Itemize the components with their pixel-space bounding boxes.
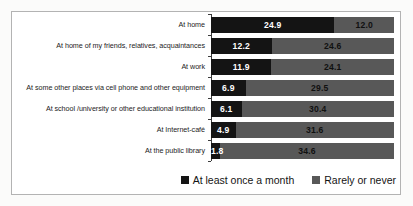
axis-tick [208, 56, 211, 57]
bar: 11.924.1 [211, 59, 394, 75]
segment-at-least-once-a-month: 6.1 [211, 101, 242, 117]
segment-rarely-or-never: 30.4 [242, 101, 394, 117]
axis-tick [208, 14, 211, 15]
value-label: 11.9 [233, 62, 250, 72]
value-label: 6.9 [222, 83, 235, 93]
segment-rarely-or-never: 31.6 [236, 122, 394, 138]
value-label: 1.8 [211, 146, 224, 156]
segment-at-least-once-a-month: 4.9 [211, 122, 236, 138]
value-label: 31.6 [306, 125, 324, 135]
value-label: 30.4 [309, 104, 327, 114]
category-label: At work [12, 62, 211, 71]
chart-row: At school /university or other education… [12, 98, 400, 119]
value-label: 24.9 [264, 20, 282, 30]
legend: At least once a monthRarely or never [12, 174, 400, 186]
category-label: At the public library [12, 146, 211, 155]
value-label: 34.6 [298, 146, 316, 156]
value-label: 29.5 [311, 83, 329, 93]
segment-at-least-once-a-month: 6.9 [211, 80, 246, 96]
bar: 4.931.6 [211, 122, 394, 138]
value-label: 24.1 [324, 62, 342, 72]
legend-item: At least once a month [181, 174, 295, 186]
chart-row: At work11.924.1 [12, 56, 400, 77]
segment-rarely-or-never: 12.0 [334, 17, 394, 33]
chart-row: At Internet-café4.931.6 [12, 119, 400, 140]
chart-row: At home24.912.0 [12, 14, 400, 35]
category-label: At home of my friends, relatives, acquai… [12, 41, 211, 50]
segment-rarely-or-never: 24.6 [272, 38, 394, 54]
axis-tick [208, 119, 211, 120]
chart-row: At home of my friends, relatives, acquai… [12, 35, 400, 56]
legend-label: At least once a month [193, 174, 295, 186]
chart-panel: At home24.912.0At home of my friends, re… [11, 11, 401, 195]
segment-at-least-once-a-month: 24.9 [211, 17, 334, 33]
segment-at-least-once-a-month: 12.2 [211, 38, 272, 54]
axis-tick [208, 77, 211, 78]
axis-tick [208, 161, 211, 162]
bar: 6.929.5 [211, 80, 394, 96]
value-label: 12.2 [233, 41, 251, 51]
chart-row: At the public library1.834.6 [12, 140, 400, 161]
segment-at-least-once-a-month: 11.9 [211, 59, 271, 75]
bar: 24.912.0 [211, 17, 394, 33]
chart-rows: At home24.912.0At home of my friends, re… [12, 12, 400, 161]
segment-rarely-or-never: 24.1 [271, 59, 394, 75]
legend-swatch-rarely-or-never [312, 176, 320, 184]
segment-rarely-or-never: 34.6 [220, 143, 394, 159]
axis-tick [208, 98, 211, 99]
axis-tick [208, 35, 211, 36]
segment-at-least-once-a-month: 1.8 [211, 143, 220, 159]
legend-item: Rarely or never [312, 174, 396, 186]
legend-swatch-at-least-once-a-month [181, 176, 189, 184]
category-label: At some other places via cell phone and … [12, 83, 211, 92]
segment-rarely-or-never: 29.5 [246, 80, 394, 96]
axis-tick [208, 140, 211, 141]
category-label: At Internet-café [12, 125, 211, 134]
value-label: 4.9 [217, 125, 230, 135]
bar: 1.834.6 [211, 143, 394, 159]
value-label: 6.1 [220, 104, 233, 114]
category-label: At home [12, 20, 211, 29]
value-label: 24.6 [324, 41, 342, 51]
legend-label: Rarely or never [324, 174, 396, 186]
bar: 6.130.4 [211, 101, 394, 117]
category-label: At school /university or other education… [12, 104, 211, 113]
bar: 12.224.6 [211, 38, 394, 54]
chart-row: At some other places via cell phone and … [12, 77, 400, 98]
value-label: 12.0 [355, 20, 373, 30]
